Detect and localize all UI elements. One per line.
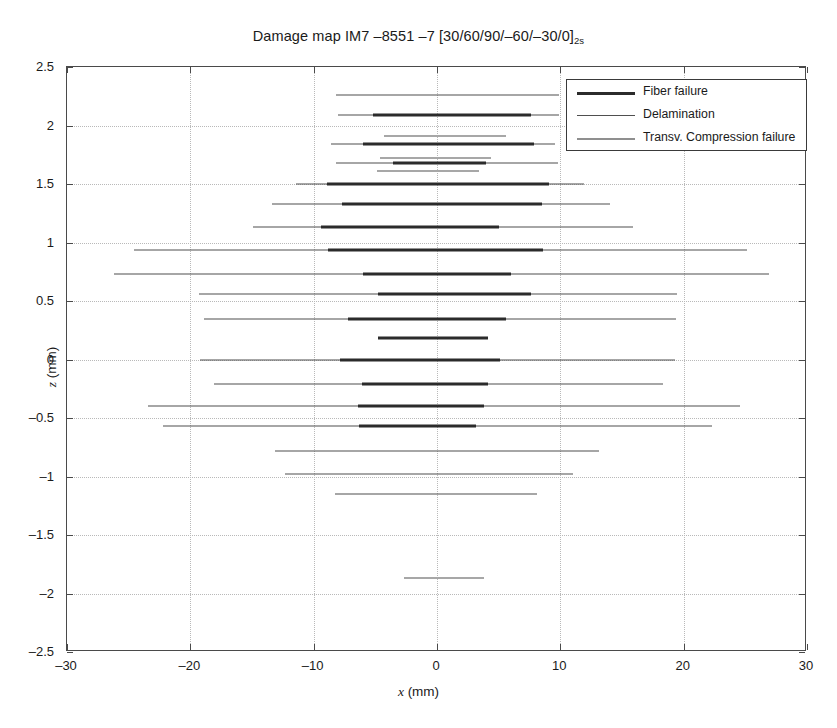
chart-title-text: Damage map IM7 –8551 –7 [30/60/90/–60/–3… — [253, 28, 574, 44]
gridline-horizontal — [67, 418, 805, 419]
x-axis-tick-label: –30 — [55, 658, 77, 673]
x-axis-tick — [684, 67, 685, 73]
x-axis-tick — [437, 67, 438, 73]
y-axis-tick — [799, 418, 805, 419]
y-axis-tick — [67, 652, 73, 653]
damage-segment-fiber — [363, 273, 511, 276]
legend-label-fiber: Fiber failure — [643, 84, 708, 98]
damage-segment-delam — [336, 95, 559, 96]
x-axis-tick — [314, 644, 315, 650]
damage-segment-transv — [377, 170, 479, 172]
y-axis-tick-label: –0.5 — [10, 410, 54, 425]
x-axis-tick — [314, 67, 315, 73]
damage-segment-fiber — [362, 383, 488, 386]
y-axis-tick — [799, 360, 805, 361]
y-axis-tick — [799, 477, 805, 478]
damage-segment-fiber — [373, 113, 531, 116]
x-axis-tick-label: 20 — [675, 658, 689, 673]
y-axis-tick — [67, 360, 73, 361]
legend-swatch-delam — [577, 115, 635, 116]
legend-swatch-fiber — [577, 92, 635, 95]
damage-segment-fiber — [321, 226, 499, 229]
y-axis-tick — [799, 535, 805, 536]
damage-segment-delam — [285, 474, 572, 475]
legend-item-delam: Delamination — [567, 104, 806, 128]
x-axis-tick-label: 30 — [799, 658, 813, 673]
chart-title-subscript: 2s — [574, 35, 584, 46]
figure-damage-map: Damage map IM7 –8551 –7 [30/60/90/–60/–3… — [0, 0, 837, 728]
y-axis-tick — [799, 184, 805, 185]
legend-item-transv: Transv. Compression failure — [567, 127, 806, 151]
y-axis-tick-label: 1.5 — [10, 176, 54, 191]
damage-segment-fiber — [342, 202, 542, 205]
gridline-horizontal — [67, 594, 805, 595]
x-axis-tick — [807, 67, 808, 73]
damage-segment-fiber — [378, 337, 488, 340]
x-axis-tick — [684, 644, 685, 650]
gridline-vertical — [190, 67, 191, 650]
legend: Fiber failureDelaminationTransv. Compres… — [566, 79, 807, 151]
x-axis-tick — [190, 644, 191, 650]
x-axis-tick-label: –20 — [178, 658, 200, 673]
y-axis-tick — [67, 184, 73, 185]
damage-segment-fiber — [358, 405, 484, 408]
gridline-horizontal — [67, 301, 805, 302]
y-axis-tick-label: 2.5 — [10, 59, 54, 74]
y-axis-tick — [799, 301, 805, 302]
gridline-vertical — [684, 67, 685, 650]
y-axis-tick — [799, 594, 805, 595]
y-axis-tick-label: 2 — [10, 117, 54, 132]
y-axis-tick — [799, 243, 805, 244]
x-axis-tick — [190, 67, 191, 73]
y-axis-tick — [67, 67, 73, 68]
plot-area — [66, 66, 806, 651]
y-axis-tick — [67, 418, 73, 419]
y-axis-tick — [799, 652, 805, 653]
chart-title: Damage map IM7 –8551 –7 [30/60/90/–60/–3… — [0, 28, 837, 46]
y-axis-tick-label: 0 — [10, 351, 54, 366]
x-axis-tick — [560, 67, 561, 73]
y-axis-tick — [67, 477, 73, 478]
x-axis-tick-label: 10 — [552, 658, 566, 673]
y-axis-tick-label: 1 — [10, 234, 54, 249]
gridline-horizontal — [67, 535, 805, 536]
damage-segment-fiber — [348, 317, 506, 320]
legend-label-transv: Transv. Compression failure — [643, 130, 795, 144]
x-axis-tick — [560, 644, 561, 650]
x-axis-tick-label: 0 — [432, 658, 439, 673]
y-axis-tick — [67, 535, 73, 536]
damage-segment-transv — [380, 157, 491, 159]
damage-segment-fiber — [393, 161, 487, 164]
damage-segment-fiber — [359, 425, 476, 428]
x-axis-tick — [807, 644, 808, 650]
y-axis-tick — [799, 67, 805, 68]
damage-segment-delam — [275, 450, 598, 451]
damage-segment-fiber — [363, 143, 534, 146]
y-axis-tick — [67, 126, 73, 127]
legend-swatch-transv — [577, 138, 635, 140]
y-axis-tick — [67, 243, 73, 244]
damage-segment-fiber — [328, 248, 543, 251]
y-axis-tick-label: –2.5 — [10, 644, 54, 659]
damage-segment-fiber — [378, 292, 531, 295]
x-axis-title: x (mm) — [0, 684, 837, 700]
damage-segment-fiber — [327, 183, 549, 186]
x-axis-tick-label: –10 — [302, 658, 324, 673]
legend-item-fiber: Fiber failure — [567, 81, 806, 105]
damage-segment-delam — [335, 494, 537, 495]
y-axis-tick — [67, 301, 73, 302]
y-axis-tick-label: –1.5 — [10, 527, 54, 542]
y-axis-tick — [67, 594, 73, 595]
y-axis-tick-label: 0.5 — [10, 293, 54, 308]
damage-segment-transv — [384, 135, 506, 137]
legend-label-delam: Delamination — [643, 107, 715, 121]
damage-segment-transv — [404, 577, 484, 579]
x-axis-tick — [437, 644, 438, 650]
y-axis-tick-label: –2 — [10, 585, 54, 600]
gridline-horizontal — [67, 477, 805, 478]
gridline-horizontal — [67, 243, 805, 244]
y-axis-tick-label: –1 — [10, 468, 54, 483]
x-axis-tick — [67, 644, 68, 650]
damage-segment-fiber — [340, 358, 500, 361]
